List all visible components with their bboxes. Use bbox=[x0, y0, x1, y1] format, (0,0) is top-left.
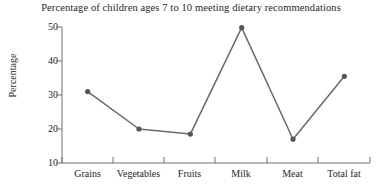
axes bbox=[56, 27, 370, 163]
x-axis-ticks bbox=[62, 157, 370, 163]
data-point-vegetables bbox=[136, 126, 141, 131]
data-point-meat bbox=[290, 137, 295, 142]
chart-figure: Percentage of children ages 7 to 10 meet… bbox=[0, 0, 382, 187]
plot-area bbox=[0, 0, 382, 187]
y-axis-ticks bbox=[56, 27, 62, 163]
data-series-line bbox=[88, 28, 345, 140]
data-series-markers bbox=[85, 25, 347, 142]
data-point-fruits bbox=[188, 132, 193, 137]
data-point-milk bbox=[239, 25, 244, 30]
data-point-total-fat bbox=[342, 74, 347, 79]
data-point-grains bbox=[85, 89, 90, 94]
